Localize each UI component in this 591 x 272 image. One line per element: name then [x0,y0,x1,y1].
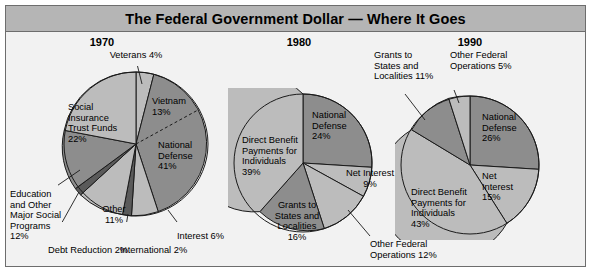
chart-year-1980: 1980 [269,36,329,48]
figure-frame: The Federal Government Dollar — Where It… [0,0,591,272]
label-other-1970: Other 11% [92,204,136,225]
charts-container: 1970 [6,32,585,266]
label-other-federal-1980: Other Federal Operations 12% [370,239,468,260]
label-social-insurance-1970: Social Insurance Trust Funds 22% [68,102,142,144]
label-vietnam-1970: Vietnam 13% [152,96,202,117]
leader-other-federal-1980 [348,210,370,236]
label-grants-1980: Grants to States and Localities 16% [268,200,326,242]
label-national-defense-1980: National Defense 24% [312,110,368,142]
label-grants-1990: Grants to States and Localities 11% [374,50,444,82]
label-education-1970: Education and Other Major Social Program… [10,189,78,242]
label-net-interest-1980: Net Interest 9% [336,168,404,189]
figure-title-bar: The Federal Government Dollar — Where It… [6,6,585,32]
label-national-defense-1990: National Defense 26% [482,112,538,144]
label-net-interest-1990: Net Interest 15% [482,171,530,203]
leader-grants-1990 [405,94,425,120]
label-other-federal-1990: Other Federal Operations 5% [450,50,528,71]
page-title: The Federal Government Dollar — Where It… [125,11,466,27]
chart-year-1970: 1970 [72,36,132,48]
leader-interest-1970 [168,210,186,222]
chart-year-1990: 1990 [440,36,500,48]
label-debt-reduction-1970: Debt Reduction 2% [48,245,150,256]
label-direct-benefit-1990: Direct Benefit Payments for Individuals … [411,187,489,229]
label-direct-benefit-1980: Direct Benefit Payments for Individuals … [242,135,320,177]
label-veterans-1970: Veterans 4% [98,50,174,61]
label-national-defense-1970: National Defense 41% [158,140,212,172]
